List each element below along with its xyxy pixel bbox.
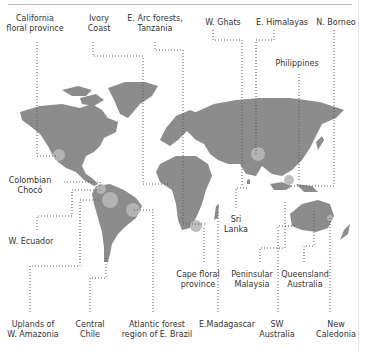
label-e-himalayas: E. Himalayas [256,18,308,28]
label-w-ecuador: W. Ecuador [9,237,54,247]
label-cape-floral: Cape floral province [176,270,219,290]
label-sw-australia: SW Australia [259,320,294,340]
label-central-chile: Central Chile [75,320,104,340]
hotspot-cape [190,220,202,232]
label-new-caledonia: New Caledonia [316,320,356,340]
label-n-borneo: N. Borneo [316,18,356,28]
label-w-ghats: W. Ghats [205,18,241,28]
label-california: California floral province [6,14,63,34]
hotspot-california [53,149,65,161]
label-ivory-coast: Ivory Coast [88,14,111,34]
hotspot-himalayas [251,147,265,161]
label-e-madagascar: E.Madagascar [199,320,255,330]
label-sri-lanka: Sri Lanka [224,215,248,235]
label-philippines: Philippines [275,59,318,69]
label-e-arc: E. Arc forests, Tanzania [127,14,182,34]
label-w-amazonia: Uplands of W. Amazonia [7,320,59,340]
world-map [0,0,365,352]
label-queensland: Queensland Australia [281,270,329,290]
hotspot-choco [96,184,106,194]
label-atlantic-forest: Atlantic forest region of E. Brazil [122,320,193,340]
hotspot-amazonia [102,192,118,208]
continents [20,82,350,262]
label-peninsular-malaysia: Peninsular Malaysia [231,270,272,290]
label-colombian-choco: Colombian Chocó [9,176,52,196]
hotspot-philippines [284,175,294,185]
